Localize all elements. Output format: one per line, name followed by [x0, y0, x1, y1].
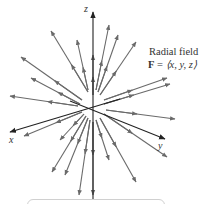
field-arrow-inner	[98, 66, 107, 92]
axes	[10, 12, 165, 200]
field-arrow-inner	[85, 120, 90, 154]
field-arrow-inner	[100, 71, 116, 95]
vector-field-plot	[0, 0, 202, 204]
z-axis-label: z	[84, 3, 88, 14]
caption-box	[27, 199, 165, 204]
field-arrow-inner	[58, 92, 80, 104]
y-axis-label: y	[158, 140, 162, 151]
field-arrow-inner	[96, 61, 102, 90]
field-arrow-inner	[96, 120, 102, 138]
formula-rhs: ⟨x, y, z⟩	[166, 59, 197, 70]
field-arrow-inner	[104, 90, 132, 100]
field-arrow-inner	[106, 110, 137, 114]
formula-eq: =	[154, 59, 165, 70]
field-arrow-inner	[55, 81, 82, 100]
field-formula: F = ⟨x, y, z⟩	[148, 59, 197, 71]
field-arrow-inner	[100, 118, 116, 147]
radial-field-figure: z x y Radial field F = ⟨x, y, z⟩	[0, 0, 202, 204]
y-axis	[70, 101, 165, 139]
field-arrow-inner	[83, 68, 88, 91]
x-axis-label: x	[9, 134, 13, 145]
field-arrow-inner	[73, 114, 84, 126]
figure-title: Radial field	[149, 46, 198, 58]
